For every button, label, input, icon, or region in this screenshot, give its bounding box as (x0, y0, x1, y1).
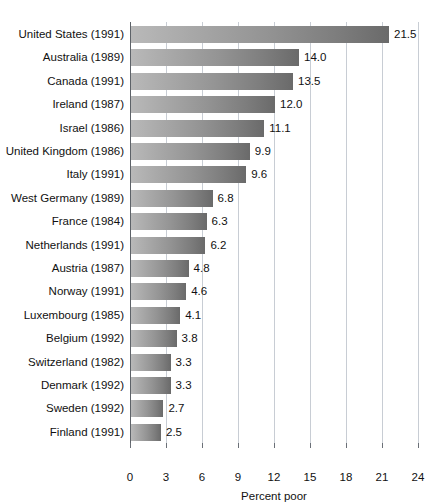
x-tick-label: 12 (254, 471, 294, 483)
bar (131, 354, 171, 371)
plot-area: 03691215182124Percent poorUnited States … (130, 22, 418, 443)
category-label: Denmark (1992) (2, 377, 124, 394)
bar (131, 190, 213, 207)
category-label: Canada (1991) (2, 73, 124, 90)
bar-row: Italy (1991)9.6 (130, 166, 418, 189)
bar-row: Ireland (1987)12.0 (130, 96, 418, 119)
bar-value-label: 4.6 (186, 283, 207, 300)
bar-value-label: 4.8 (189, 260, 210, 277)
category-label: Israel (1986) (2, 120, 124, 137)
bar-value-label: 2.7 (163, 400, 184, 417)
x-tick-label: 24 (398, 471, 434, 483)
bar-row: Australia (1989)14.0 (130, 49, 418, 72)
bar-value-label: 4.1 (180, 307, 201, 324)
x-tick-label: 21 (362, 471, 402, 483)
bar-row: Finland (1991)2.5 (130, 424, 418, 447)
bar-row: Luxembourg (1985)4.1 (130, 307, 418, 330)
bar (131, 330, 177, 347)
bar-row: France (1984)6.3 (130, 213, 418, 236)
x-tick-label: 3 (146, 471, 186, 483)
bar-row: Norway (1991)4.6 (130, 283, 418, 306)
bar-value-label: 14.0 (299, 49, 326, 66)
x-tick-label: 0 (110, 471, 150, 483)
bar-row: Austria (1987)4.8 (130, 260, 418, 283)
bar (131, 73, 293, 90)
bar (131, 283, 186, 300)
category-label: Austria (1987) (2, 260, 124, 277)
bar (131, 26, 389, 43)
bar-row: Belgium (1992)3.8 (130, 330, 418, 353)
bar-value-label: 12.0 (275, 96, 302, 113)
bar-value-label: 21.5 (389, 26, 416, 43)
bar (131, 120, 264, 137)
bar (131, 166, 246, 183)
bar (131, 377, 171, 394)
x-axis-title: Percent poor (130, 490, 418, 502)
bar-value-label: 3.3 (171, 377, 192, 394)
x-tick-24 (418, 443, 419, 448)
bar (131, 143, 250, 160)
bar-row: Netherlands (1991)6.2 (130, 237, 418, 260)
bar (131, 237, 205, 254)
category-label: United Kingdom (1986) (2, 143, 124, 160)
bar-value-label: 13.5 (293, 73, 320, 90)
x-tick-label: 18 (326, 471, 366, 483)
bar-row: West Germany (1989)6.8 (130, 190, 418, 213)
bar-value-label: 3.8 (177, 330, 198, 347)
bar (131, 307, 180, 324)
bar-value-label: 11.1 (264, 120, 291, 137)
bar-value-label: 2.5 (161, 424, 182, 441)
bar (131, 213, 207, 230)
category-label: Australia (1989) (2, 49, 124, 66)
category-label: Luxembourg (1985) (2, 307, 124, 324)
category-label: United States (1991) (2, 26, 124, 43)
category-label: France (1984) (2, 213, 124, 230)
category-label: Sweden (1992) (2, 400, 124, 417)
bar-value-label: 9.9 (250, 143, 271, 160)
category-label: Finland (1991) (2, 424, 124, 441)
bar-row: United Kingdom (1986)9.9 (130, 143, 418, 166)
bar-value-label: 6.8 (213, 190, 234, 207)
category-label: Switzerland (1982) (2, 354, 124, 371)
bar (131, 96, 275, 113)
bar (131, 424, 161, 441)
gridline-24 (418, 22, 419, 443)
bar-row: Denmark (1992)3.3 (130, 377, 418, 400)
category-label: Netherlands (1991) (2, 237, 124, 254)
bar (131, 400, 163, 417)
x-tick-label: 15 (290, 471, 330, 483)
bar-row: United States (1991)21.5 (130, 26, 418, 49)
bar-value-label: 3.3 (171, 354, 192, 371)
category-label: Ireland (1987) (2, 96, 124, 113)
bar-chart: 03691215182124Percent poorUnited States … (0, 0, 434, 502)
bar-value-label: 9.6 (246, 166, 267, 183)
category-label: Italy (1991) (2, 166, 124, 183)
x-tick-label: 6 (182, 471, 222, 483)
bar-row: Canada (1991)13.5 (130, 73, 418, 96)
bar-value-label: 6.3 (207, 213, 228, 230)
bar-row: Sweden (1992)2.7 (130, 400, 418, 423)
bar (131, 49, 299, 66)
category-label: West Germany (1989) (2, 190, 124, 207)
bar (131, 260, 189, 277)
bar-row: Switzerland (1982)3.3 (130, 354, 418, 377)
bar-row: Israel (1986)11.1 (130, 120, 418, 143)
bar-value-label: 6.2 (205, 237, 226, 254)
category-label: Norway (1991) (2, 283, 124, 300)
x-tick-label: 9 (218, 471, 258, 483)
category-label: Belgium (1992) (2, 330, 124, 347)
